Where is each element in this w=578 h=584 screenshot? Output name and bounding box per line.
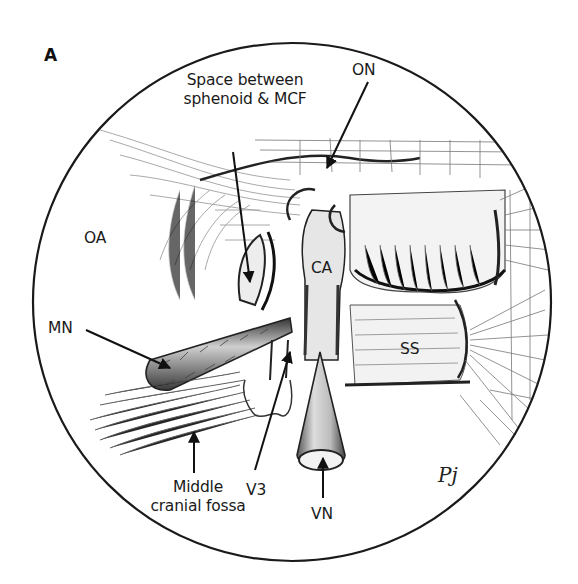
label-optic-nerve: ON [352, 61, 375, 80]
sellar-region [350, 190, 505, 293]
label-vidian-nerve: VN [311, 505, 333, 524]
label-space-line1: Space between [170, 71, 320, 90]
label-orbital-apex: OA [84, 229, 106, 248]
artist-signature: Pj [438, 463, 458, 487]
label-middle-cranial-fossa: Middle cranial fossa [142, 478, 254, 516]
label-mcf-line1: Middle [142, 478, 254, 497]
label-maxillary-nerve: MN [48, 319, 73, 338]
label-v3-mandibular-nerve: V3 [246, 481, 266, 500]
label-sphenoid-sinus: SS [400, 340, 419, 359]
label-carotid-artery: CA [311, 259, 332, 278]
label-mcf-line2: cranial fossa [142, 497, 254, 516]
panel-letter: A [44, 45, 57, 65]
label-space-between-sphenoid-mcf: Space between sphenoid & MCF [170, 71, 320, 109]
label-space-line2: sphenoid & MCF [170, 90, 320, 109]
